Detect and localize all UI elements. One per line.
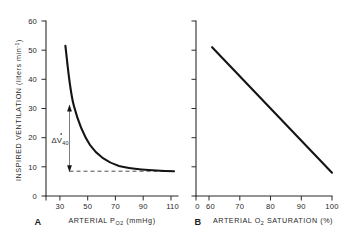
panel-b-label: B [195, 217, 202, 227]
panel-a-y-ticklabel-0: 0 [33, 192, 37, 201]
panel-a-x-ticklabel-30: 30 [55, 202, 64, 211]
panel-a-x-axis-title: ARTERIAL PO2 (mmHg) [68, 216, 155, 226]
panel-a-x-ticklabel-110: 110 [166, 202, 179, 211]
chart-svg: INSPIRED VENTILATION (liters min-1) 0 10… [0, 0, 349, 238]
panel-a-delta-arrow-head-up [67, 105, 72, 112]
panel-a-x-ticklabel-90: 90 [139, 202, 148, 211]
panel-b-x-ticklabel-0: 0 [195, 202, 199, 211]
panel-a-x-ticklabel-50: 50 [83, 202, 92, 211]
panel-a-label: A [35, 217, 42, 227]
annotation-subscript-40: 40 [62, 140, 68, 146]
svg-text:INSPIRED VENTILATION (liters m: INSPIRED VENTILATION (liters min-1) [14, 39, 23, 181]
panel-a-ventilation-curve [65, 46, 174, 171]
panel-a-x-ticklabel-70: 70 [111, 202, 120, 211]
panel-b-x-ticklabel-80: 80 [266, 202, 275, 211]
panel-b-x-axis-title: ARTERIAL O2 SATURATION (%) [213, 216, 333, 226]
panel-a: INSPIRED VENTILATION (liters min-1) 0 10… [14, 17, 179, 227]
panel-a-delta-v40-annotation: ΔV40 [51, 133, 68, 146]
panel-a-y-ticklabel-30: 30 [28, 104, 37, 113]
annotation-v-dot-icon [60, 133, 62, 135]
panel-a-y-axis-title: INSPIRED VENTILATION (liters min-1) [14, 39, 23, 181]
panel-a-y-ticklabel-20: 20 [28, 133, 37, 142]
panel-a-y-ticklabel-40: 40 [28, 75, 37, 84]
panel-b: 0 60 70 80 90 100 ARTERIAL O2 SATURATION… [192, 21, 339, 227]
svg-text:ΔV40: ΔV40 [51, 136, 68, 146]
y-axis-title-units: (liters min [14, 48, 23, 85]
panel-a-y-ticklabel-50: 50 [28, 46, 37, 55]
y-axis-title-units-close: ) [14, 39, 23, 42]
y-axis-title-main: INSPIRED VENTILATION [14, 87, 23, 181]
panel-b-x-ticklabel-70: 70 [235, 202, 244, 211]
x-axis-title-main: ARTERIAL P [68, 216, 115, 225]
panel-b-x-ticklabel-100: 100 [325, 202, 338, 211]
panel-a-y-ticklabel-60: 60 [28, 17, 37, 26]
panel-b-saturation-line [212, 47, 332, 173]
figure-container: INSPIRED VENTILATION (liters min-1) 0 10… [0, 0, 349, 238]
panel-b-x-ticklabel-90: 90 [297, 202, 306, 211]
panel-a-y-ticklabel-10: 10 [28, 163, 37, 172]
panel-b-x-title-main: ARTERIAL O [213, 216, 261, 225]
panel-b-x-ticklabel-60: 60 [206, 202, 215, 211]
panel-b-x-title-units: (%) [320, 216, 333, 225]
panel-b-x-title-saturation: SATURATION [267, 216, 318, 225]
x-axis-title-units: (mmHg) [126, 216, 155, 225]
